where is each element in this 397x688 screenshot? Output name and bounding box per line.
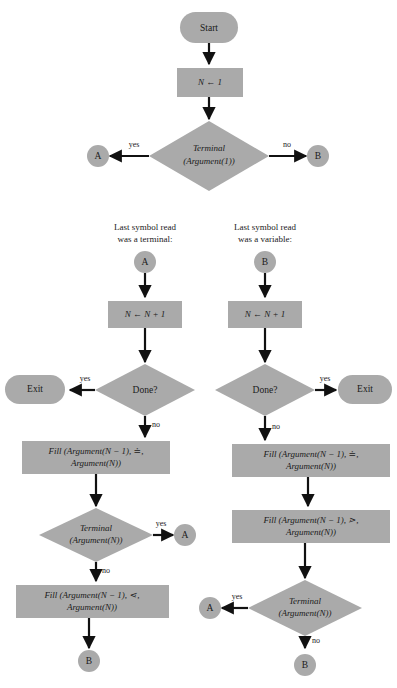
terminal-decision-line1: Terminal — [193, 143, 226, 153]
right-done-label: Done? — [253, 385, 278, 395]
flowchart-canvas: Start N ← 1 Terminal (Argument(1)) yes A… — [0, 0, 397, 688]
right-node-fill2[interactable]: Fill (Argument(N − 1), ⋗, Argument(N)) — [232, 510, 390, 543]
right-terminal-line1: Terminal — [289, 596, 322, 606]
label-no-top: no — [283, 140, 291, 149]
left-node-fill2[interactable]: Fill (Argument(N − 1), ⋖, Argument(N)) — [16, 585, 169, 618]
left-connector-a-entry-label: A — [142, 257, 149, 267]
right-fill2-line2: Argument(N)) — [285, 527, 336, 537]
right-header-line2: was a variable: — [238, 234, 292, 244]
right-terminal-line2: (Argument(N)) — [278, 608, 331, 618]
left-connector-a-exit[interactable]: A — [174, 524, 196, 546]
connector-a-top-label: A — [95, 151, 102, 161]
init-label: N ← 1 — [197, 77, 222, 87]
right-node-exit[interactable]: Exit — [338, 375, 392, 404]
flowchart-page: Start N ← 1 Terminal (Argument(1)) yes A… — [0, 0, 397, 688]
right-connector-b-entry-label: B — [262, 257, 268, 267]
right-node-increment[interactable]: N ← N + 1 — [228, 301, 302, 328]
left-fill1-line1: Fill (Argument(N − 1), ≐, — [48, 446, 144, 456]
node-start[interactable]: Start — [180, 12, 238, 43]
left-node-terminal[interactable]: Terminal (Argument(N)) — [39, 508, 153, 562]
right-connector-a-exit-label: A — [207, 603, 214, 613]
left-header-line2: was a terminal: — [118, 234, 173, 244]
left-node-done[interactable]: Done? — [95, 364, 195, 416]
right-header-line1: Last symbol read — [234, 222, 296, 232]
right-connector-b-exit[interactable]: B — [294, 654, 316, 676]
node-init[interactable]: N ← 1 — [177, 68, 243, 97]
left-increment-label: N ← N + 1 — [124, 309, 166, 319]
left-fill2-line1: Fill (Argument(N − 1), ⋖, — [43, 590, 139, 600]
right-fill2-line1: Fill (Argument(N − 1), ⋗, — [262, 515, 358, 525]
left-connector-a-entry[interactable]: A — [134, 251, 156, 273]
right-connector-b-exit-label: B — [302, 660, 308, 670]
right-fill1-line1: Fill (Argument(N − 1), ≐, — [263, 449, 359, 459]
right-node-fill1[interactable]: Fill (Argument(N − 1), ≐, Argument(N)) — [232, 444, 390, 477]
left-terminal-label-no: no — [102, 566, 110, 575]
left-done-label: Done? — [133, 385, 158, 395]
right-terminal-label-no: no — [312, 636, 320, 645]
connector-a-top[interactable]: A — [87, 145, 109, 167]
left-terminal-label-yes: yes — [156, 519, 167, 528]
right-connector-b-entry[interactable]: B — [254, 251, 276, 273]
left-fill1-line2: Argument(N)) — [70, 458, 121, 468]
left-connector-b-exit-label: B — [86, 656, 92, 666]
left-label-yes: yes — [80, 374, 91, 383]
left-exit-label: Exit — [27, 384, 43, 394]
node-terminal-decision-top[interactable]: Terminal (Argument(1)) — [149, 121, 269, 191]
right-label-yes: yes — [320, 374, 331, 383]
right-exit-label: Exit — [357, 384, 373, 394]
left-node-fill1[interactable]: Fill (Argument(N − 1), ≐, Argument(N)) — [22, 441, 170, 474]
left-connector-a-exit-label: A — [182, 530, 189, 540]
start-label: Start — [200, 23, 218, 33]
right-fill1-line2: Argument(N)) — [285, 461, 336, 471]
connector-b-top[interactable]: B — [307, 145, 329, 167]
left-label-no: no — [152, 420, 160, 429]
left-node-exit[interactable]: Exit — [5, 375, 65, 404]
left-node-increment[interactable]: N ← N + 1 — [108, 301, 182, 328]
right-node-done[interactable]: Done? — [215, 364, 315, 416]
left-connector-b-exit[interactable]: B — [78, 650, 100, 672]
left-terminal-line2: (Argument(N)) — [69, 535, 122, 545]
right-label-no: no — [272, 422, 280, 431]
left-header-line1: Last symbol read — [114, 222, 176, 232]
label-yes-top: yes — [129, 140, 140, 149]
right-terminal-label-yes: yes — [232, 592, 243, 601]
left-terminal-line1: Terminal — [80, 523, 113, 533]
connector-b-top-label: B — [315, 151, 321, 161]
right-connector-a-exit[interactable]: A — [199, 597, 221, 619]
right-node-terminal[interactable]: Terminal (Argument(N)) — [248, 580, 362, 636]
left-fill2-line2: Argument(N)) — [66, 602, 117, 612]
right-increment-label: N ← N + 1 — [244, 309, 286, 319]
terminal-decision-line2: (Argument(1)) — [183, 156, 235, 166]
